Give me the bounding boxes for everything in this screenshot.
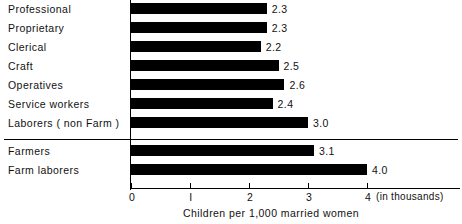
bar-row: Clerical2.2 [0, 38, 462, 57]
x-tick-label: 2 [247, 191, 253, 203]
x-tick-mark [190, 183, 191, 189]
x-axis-unit-note: (in thousands) [376, 191, 444, 202]
bar-row: Operatives2.6 [0, 76, 462, 95]
bar-row: Craft2.5 [0, 57, 462, 76]
category-label: Proprietary [8, 19, 118, 38]
category-label: Farm laborers [8, 161, 118, 180]
bar-value-label: 3.0 [313, 114, 329, 133]
bar-chart: Professional2.3Proprietary2.3Clerical2.2… [0, 0, 462, 224]
x-tick-label: 3 [306, 191, 312, 203]
bar-value-label: 2.2 [266, 38, 282, 57]
category-label: Service workers [8, 95, 118, 114]
x-axis-title: Children per 1,000 married women [131, 207, 411, 219]
category-label: Craft [8, 57, 118, 76]
x-axis-line [130, 188, 460, 189]
x-tick-mark [249, 183, 250, 189]
bar [131, 79, 284, 90]
bar [131, 3, 267, 14]
bar [131, 60, 279, 71]
group-separator-line [4, 139, 458, 140]
bar-value-label: 2.6 [289, 76, 305, 95]
bar [131, 145, 314, 156]
bar-value-label: 4.0 [372, 161, 388, 180]
category-label: Clerical [8, 38, 118, 57]
bar [131, 117, 308, 128]
x-tick-label: I [189, 191, 192, 203]
category-label: Professional [8, 0, 118, 19]
bar [131, 98, 273, 109]
bar [131, 41, 261, 52]
bar-value-label: 2.5 [284, 57, 300, 76]
bar-value-label: 2.4 [278, 95, 294, 114]
x-tick-label: 0 [129, 191, 135, 203]
bar-row: Laborers ( non Farm )3.0 [0, 114, 462, 133]
bar-value-label: 2.3 [272, 19, 288, 38]
x-tick-mark [308, 183, 309, 189]
bar-row: Professional2.3 [0, 0, 462, 19]
x-tick-mark [367, 183, 368, 189]
bar-row: Farmers3.1 [0, 142, 462, 161]
category-label: Operatives [8, 76, 118, 95]
bar-row: Service workers2.4 [0, 95, 462, 114]
category-label: Laborers ( non Farm ) [8, 114, 118, 133]
category-label: Farmers [8, 142, 118, 161]
bar-row: Proprietary2.3 [0, 19, 462, 38]
x-tick-mark [131, 183, 132, 189]
bar-value-label: 3.1 [319, 142, 335, 161]
x-tick-label: 4 [365, 191, 371, 203]
bar-value-label: 2.3 [272, 0, 288, 19]
bar [131, 164, 367, 175]
bar [131, 22, 267, 33]
bar-row: Farm laborers4.0 [0, 161, 462, 180]
